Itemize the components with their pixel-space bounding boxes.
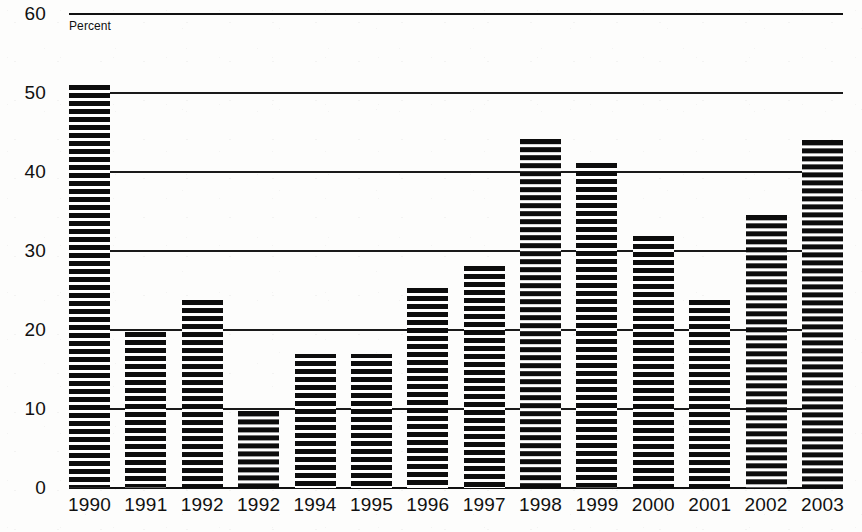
bar-1998-8 <box>520 139 561 488</box>
bar-1996-6 <box>407 288 448 488</box>
x-axis-tick-1992-2: 1992 <box>175 494 230 516</box>
x-axis-tick-1995-5: 1995 <box>344 494 399 516</box>
x-axis-tick-2003-13: 2003 <box>795 494 850 516</box>
bar-2002-12 <box>746 215 787 488</box>
x-axis-tick-2000-10: 2000 <box>626 494 681 516</box>
bar-2001-11 <box>689 300 730 488</box>
x-axis-tick-1996-6: 1996 <box>400 494 455 516</box>
x-axis-tick-1992-3: 1992 <box>231 494 286 516</box>
x-axis-tick-1999-9: 1999 <box>569 494 624 516</box>
bar-2003-13 <box>802 140 843 488</box>
bar-1999-9 <box>576 163 617 488</box>
bar-1992-3 <box>238 411 279 488</box>
x-axis-tick-1998-8: 1998 <box>513 494 568 516</box>
x-axis-tick-2001-11: 2001 <box>682 494 737 516</box>
bar-1991-1 <box>125 332 166 488</box>
bar-1995-5 <box>351 354 392 488</box>
bar-1990-0 <box>69 85 110 488</box>
bar-1997-7 <box>464 266 505 488</box>
x-axis-tick-1997-7: 1997 <box>457 494 512 516</box>
chart-container: 6050403020100 Percent 199019911992199219… <box>0 0 862 532</box>
plot-area <box>0 0 862 532</box>
bar-2000-10 <box>633 236 674 488</box>
bar-1994-4 <box>295 354 336 488</box>
x-axis-tick-2002-12: 2002 <box>739 494 794 516</box>
bar-1992-2 <box>182 300 223 488</box>
x-axis-tick-1991-1: 1991 <box>118 494 173 516</box>
x-axis-tick-1994-4: 1994 <box>288 494 343 516</box>
x-axis-tick-1990-0: 1990 <box>62 494 117 516</box>
